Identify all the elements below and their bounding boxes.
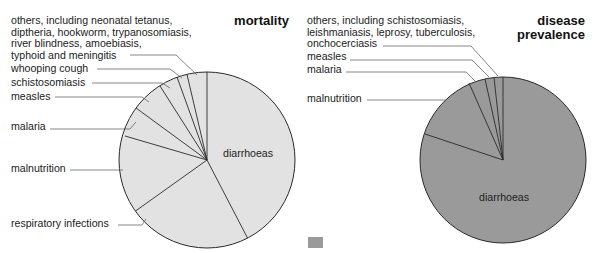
label-malnutrition: malnutrition bbox=[11, 163, 66, 175]
label-others-line4: typhoid and meningitis bbox=[11, 50, 116, 62]
chart-title-prevalence: prevalence bbox=[517, 28, 585, 42]
label-diarrhoeas: diarrhoeas bbox=[479, 191, 529, 203]
label-malnutrition: malnutrition bbox=[307, 93, 362, 105]
label-respiratory-infections: respiratory infections bbox=[11, 218, 109, 230]
label-others-line1: others, including schistosomiasis, bbox=[307, 15, 464, 27]
label-malaria: malaria bbox=[307, 64, 342, 76]
label-others-line1: others, including neonatal tetanus, bbox=[11, 15, 172, 27]
label-others-line3: river blindness, amoebiasis, bbox=[11, 38, 142, 50]
label-measles: measles bbox=[307, 51, 346, 63]
chart-title-mortality: mortality bbox=[234, 14, 289, 28]
chart-title-disease: disease bbox=[537, 14, 585, 28]
legend-swatch bbox=[308, 237, 323, 248]
label-malaria: malaria bbox=[11, 121, 46, 133]
label-measles: measles bbox=[11, 91, 50, 103]
label-others-line3: onchocerciasis bbox=[307, 38, 377, 50]
mortality-chart: others, including neonatal tetanus, dipt… bbox=[0, 0, 300, 253]
label-schistosomiasis: schistosomiasis bbox=[11, 77, 85, 89]
disease-prevalence-chart: others, including schistosomiasis, leish… bbox=[300, 0, 597, 253]
label-whooping-cough: whooping cough bbox=[11, 63, 88, 75]
label-diarrhoeas: diarrhoeas bbox=[223, 147, 273, 159]
